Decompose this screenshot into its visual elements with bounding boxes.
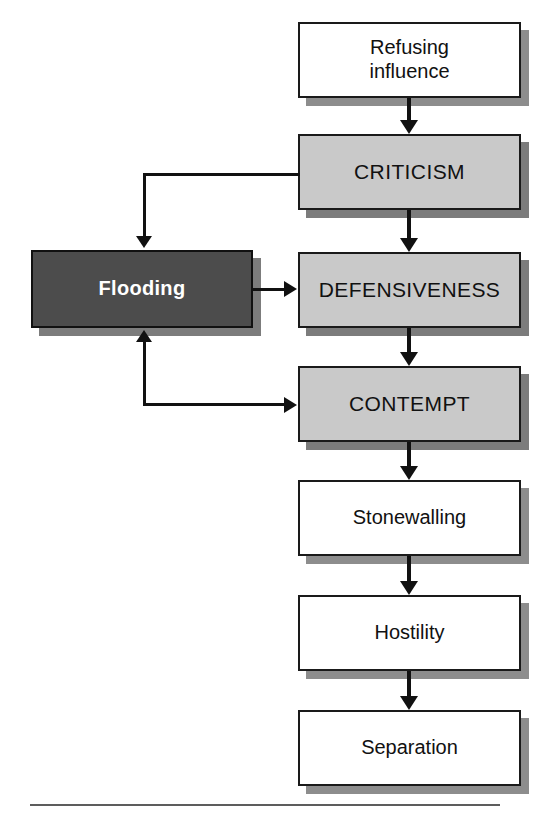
- edge-flooding-to-defensiveness-line: [253, 288, 286, 291]
- edge-stonewalling-to-hostility-arrowhead: [400, 581, 418, 595]
- node-stonewalling[interactable]: Stonewalling: [298, 480, 521, 556]
- edge-flooding-to-contempt-vertical: [143, 342, 146, 406]
- edge-flooding-to-defensiveness-arrowhead: [284, 281, 297, 297]
- edge-flooding-to-contempt-arrowhead-right: [284, 397, 297, 413]
- edge-refusing-to-criticism-line: [407, 98, 411, 122]
- node-refusing-influence[interactable]: Refusing influence: [298, 22, 521, 98]
- node-hostility[interactable]: Hostility: [298, 595, 521, 671]
- edge-contempt-to-stonewalling-line: [407, 442, 411, 468]
- node-hostility-label: Hostility: [374, 621, 444, 645]
- node-contempt-label: CONTEMPT: [349, 392, 470, 417]
- edge-stonewalling-to-hostility-line: [407, 556, 411, 583]
- edge-contempt-to-stonewalling-arrowhead: [400, 466, 418, 480]
- node-stonewalling-label: Stonewalling: [353, 506, 466, 530]
- edge-hostility-to-separation-arrowhead: [400, 696, 418, 710]
- node-defensiveness[interactable]: DEFENSIVENESS: [298, 252, 521, 328]
- diagram-canvas: Refusing influence CRITICISM DEFENSIVENE…: [0, 0, 558, 821]
- node-criticism[interactable]: CRITICISM: [298, 134, 521, 210]
- edge-flooding-to-contempt-horizontal: [143, 403, 286, 406]
- edge-refusing-to-criticism-arrowhead: [400, 120, 418, 134]
- edge-criticism-to-defensiveness-line: [407, 210, 411, 240]
- footer-horizontal-rule: [30, 804, 500, 806]
- node-criticism-label: CRITICISM: [354, 160, 465, 185]
- node-contempt[interactable]: CONTEMPT: [298, 366, 521, 442]
- edge-defensiveness-to-contempt-arrowhead: [400, 352, 418, 366]
- node-flooding-label: Flooding: [99, 277, 186, 301]
- edge-criticism-to-flooding-vertical: [143, 173, 146, 238]
- node-defensiveness-label: DEFENSIVENESS: [319, 278, 500, 303]
- node-separation[interactable]: Separation: [298, 710, 521, 786]
- node-flooding[interactable]: Flooding: [31, 250, 253, 328]
- node-refusing-influence-label: Refusing influence: [369, 36, 449, 83]
- edge-criticism-to-flooding-arrowhead: [136, 236, 152, 248]
- edge-hostility-to-separation-line: [407, 671, 411, 698]
- edge-criticism-to-flooding-horizontal: [143, 173, 300, 176]
- edge-defensiveness-to-contempt-line: [407, 328, 411, 354]
- node-separation-label: Separation: [361, 736, 458, 760]
- edge-criticism-to-defensiveness-arrowhead: [400, 238, 418, 252]
- edge-flooding-to-contempt-arrowhead-up: [136, 330, 152, 342]
